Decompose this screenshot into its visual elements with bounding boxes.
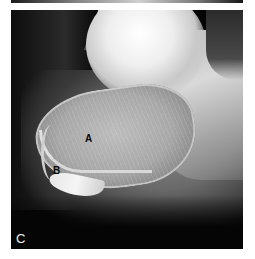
- bottom-background: [11, 195, 243, 249]
- annotation-label-b: B: [53, 166, 60, 176]
- previous-panel-edge: [11, 0, 243, 3]
- annotation-label-a: A: [85, 134, 92, 144]
- panel-label: C: [16, 232, 25, 245]
- radiograph-panel: A B C: [11, 10, 243, 249]
